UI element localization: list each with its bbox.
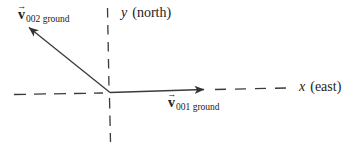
vector-subscript: 001 ground bbox=[176, 102, 220, 112]
x-axis-dashed-line-right bbox=[215, 88, 287, 90]
vector-symbol: →v bbox=[18, 8, 25, 22]
vector-v002-label: →v002 ground bbox=[18, 8, 70, 25]
y-axis-dashed-line-upper bbox=[108, 8, 110, 88]
vector-diagram: →v002 ground y(north) x(east) →v001 grou… bbox=[0, 0, 357, 152]
vector-arrow-icon: → bbox=[167, 90, 176, 99]
vector-v001-label: →v001 ground bbox=[168, 96, 220, 113]
x-axis-variable: x bbox=[299, 79, 305, 94]
vector-arrow-icon: → bbox=[17, 2, 26, 11]
vector-v002-arrow bbox=[29, 28, 110, 93]
x-axis-label: x(east) bbox=[299, 80, 341, 94]
y-axis-variable: y bbox=[121, 5, 127, 20]
x-axis-annotation: (east) bbox=[310, 79, 341, 94]
vector-symbol: →v bbox=[168, 96, 175, 110]
vector-v001-arrow bbox=[110, 90, 204, 93]
y-axis-label: y(north) bbox=[121, 6, 171, 20]
y-axis-annotation: (north) bbox=[132, 5, 171, 20]
y-axis-dashed-line-lower bbox=[110, 98, 111, 142]
vector-subscript: 002 ground bbox=[26, 14, 70, 24]
x-axis-dashed-line-left bbox=[14, 93, 103, 95]
